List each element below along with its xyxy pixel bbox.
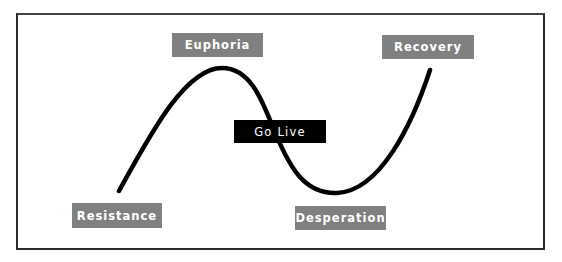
milestone-go-live: Go Live: [234, 120, 326, 143]
stage-euphoria: Euphoria: [172, 33, 263, 57]
stage-desperation: Desperation: [295, 206, 386, 230]
stage-recovery: Recovery: [382, 35, 474, 59]
stage-resistance: Resistance: [72, 203, 162, 228]
